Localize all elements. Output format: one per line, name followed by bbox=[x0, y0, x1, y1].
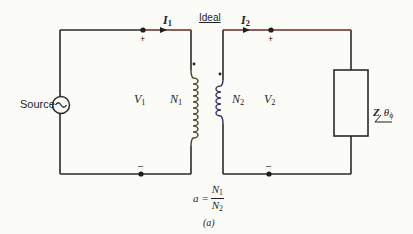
source-label: Source bbox=[20, 99, 55, 110]
primary-polarity-dot bbox=[193, 63, 196, 66]
n2-subscript: 2 bbox=[240, 98, 244, 107]
ratio-num-symbol: N bbox=[212, 183, 219, 195]
primary-plus-sign: + bbox=[140, 35, 145, 44]
i1-label: I1 bbox=[163, 14, 172, 28]
secondary-plus-sign: + bbox=[268, 35, 273, 44]
n1-label: N1 bbox=[170, 93, 182, 107]
i2-subscript: 2 bbox=[246, 19, 250, 28]
turns-ratio-formula: a = N1 N2 bbox=[193, 184, 224, 212]
secondary-coil-icon bbox=[216, 80, 223, 124]
n1-subscript: 1 bbox=[178, 98, 182, 107]
primary-top-node bbox=[140, 27, 145, 32]
load-impedance-box bbox=[334, 70, 368, 136]
secondary-top-node bbox=[268, 27, 273, 32]
load-impedance-label: Zθϕ bbox=[373, 107, 393, 120]
primary-coil-icon bbox=[191, 70, 198, 146]
transformer-diagram: Source Ideal I1 I2 + – + – V1 V2 N1 N2 Z… bbox=[0, 0, 413, 234]
load-angle-subscript: ϕ bbox=[389, 111, 393, 120]
load-z-symbol: Z bbox=[373, 106, 380, 118]
primary-minus-sign: – bbox=[138, 162, 143, 171]
v1-subscript: 1 bbox=[141, 98, 145, 107]
ratio-num-subscript: 1 bbox=[219, 188, 223, 197]
secondary-bottom-node bbox=[266, 171, 271, 176]
n2-label: N2 bbox=[232, 93, 244, 107]
secondary-minus-sign: – bbox=[266, 162, 271, 171]
v2-subscript: 2 bbox=[271, 98, 275, 107]
secondary-polarity-dot bbox=[219, 73, 222, 76]
ideal-label: Ideal bbox=[199, 13, 221, 23]
figure-caption: (a) bbox=[203, 218, 215, 228]
ratio-den-symbol: N bbox=[212, 199, 219, 211]
ratio-denominator: N2 bbox=[212, 199, 223, 213]
n2-symbol: N bbox=[232, 92, 240, 106]
ac-source-icon bbox=[53, 97, 70, 114]
i1-subscript: 1 bbox=[168, 19, 172, 28]
ratio-fraction: N1 N2 bbox=[211, 184, 224, 212]
ratio-den-subscript: 2 bbox=[219, 204, 223, 213]
ratio-lhs: a = bbox=[193, 193, 209, 204]
i2-label: I2 bbox=[241, 14, 250, 28]
ratio-numerator: N1 bbox=[211, 184, 224, 199]
primary-bottom-node bbox=[138, 171, 143, 176]
v1-label: V1 bbox=[134, 93, 146, 107]
v2-label: V2 bbox=[264, 93, 276, 107]
n1-symbol: N bbox=[170, 92, 178, 106]
